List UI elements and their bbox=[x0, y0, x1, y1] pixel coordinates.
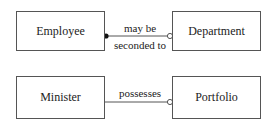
relationship-label: possesses bbox=[112, 87, 168, 99]
entity-department: Department bbox=[172, 11, 261, 51]
relationship-label-bottom: seconded to bbox=[106, 39, 174, 51]
entity-label: Portfolio bbox=[195, 90, 238, 105]
entity-minister: Minister bbox=[16, 76, 105, 119]
entity-employee: Employee bbox=[16, 11, 105, 51]
entity-label: Minister bbox=[40, 90, 81, 105]
relationship-label-top: may be bbox=[112, 22, 168, 34]
entity-label: Employee bbox=[36, 24, 85, 39]
entity-label: Department bbox=[188, 24, 245, 39]
entity-portfolio: Portfolio bbox=[172, 76, 261, 119]
